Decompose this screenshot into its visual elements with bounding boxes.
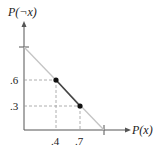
x-tick-label-04: .4 [51,135,60,147]
x-tick-label-07: .7 [75,135,84,147]
y-axis-label: P(¬x) [7,5,37,19]
point-07-03 [77,103,82,108]
x-axis-arrow-icon [125,128,131,133]
feasible-segment [56,80,80,106]
probability-diagram: P(¬x) P(x) .6 .3 .4 .7 [0,0,157,153]
y-tick-label-06: .6 [10,74,19,86]
x-axis-label: P(x) [131,123,153,137]
point-04-06 [53,77,58,82]
y-axis-arrow-icon [22,21,27,27]
y-tick-label-03: .3 [10,100,19,112]
